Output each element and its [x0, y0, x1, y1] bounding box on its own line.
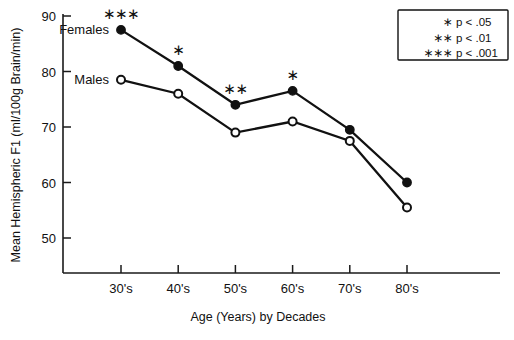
data-point	[289, 118, 297, 126]
legend-significance-stars: ∗	[442, 15, 452, 29]
significance-marker: ∗	[172, 41, 184, 59]
data-point	[403, 178, 411, 186]
y-axis-group: 5060708090	[42, 9, 71, 273]
significance-marker: ∗	[287, 66, 299, 84]
data-point	[174, 62, 182, 70]
series-label-females: Females	[59, 22, 109, 37]
legend-significance-text: p < .001	[456, 47, 498, 59]
legend-significance-text: p < .01	[456, 32, 492, 44]
data-point	[346, 137, 354, 145]
data-point	[231, 129, 239, 137]
x-tick-label: 70's	[338, 281, 362, 296]
figure-container: 5060708090 30's40's50's60's70's80's Mean…	[0, 0, 514, 340]
data-point	[403, 204, 411, 212]
y-tick-label: 70	[42, 120, 56, 135]
line-chart: 5060708090 30's40's50's60's70's80's Mean…	[0, 0, 514, 340]
x-tick-label: 30's	[109, 281, 133, 296]
x-axis-title: Age (Years) by Decades	[190, 310, 325, 324]
data-point	[117, 26, 125, 34]
data-point	[231, 101, 239, 109]
legend-significance-stars: ∗∗	[433, 31, 452, 45]
series-label-males: Males	[74, 72, 109, 87]
significance-annotation-layer: ∗∗∗∗∗∗∗	[103, 5, 299, 98]
y-tick-label: 50	[42, 231, 56, 246]
series-line	[121, 30, 407, 183]
x-tick-group: 30's40's50's60's70's80's	[109, 265, 419, 296]
y-tick-label: 60	[42, 176, 56, 191]
x-axis-group: 30's40's50's60's70's80's	[63, 265, 500, 296]
legend-significance-stars: ∗∗∗	[423, 46, 452, 60]
series-layer	[117, 26, 411, 212]
x-tick-label: 60's	[281, 281, 305, 296]
data-point	[117, 76, 125, 84]
y-tick-label: 90	[42, 9, 56, 24]
data-point	[288, 87, 296, 95]
x-tick-label: 50's	[224, 281, 248, 296]
y-tick-group: 5060708090	[42, 9, 71, 246]
series-males	[117, 76, 411, 212]
data-point	[174, 90, 182, 98]
significance-marker: ∗∗	[223, 80, 247, 98]
x-tick-label: 40's	[166, 281, 190, 296]
y-axis-title: Mean Hemispheric F1 (ml/100g Brain/min)	[9, 28, 23, 263]
y-tick-label: 80	[42, 65, 56, 80]
legend-significance-text: p < .05	[456, 16, 492, 28]
legend: ∗p < .05∗∗p < .01∗∗∗p < .001	[398, 10, 508, 60]
series-label-layer: FemalesMales	[59, 22, 109, 87]
significance-marker: ∗∗∗	[103, 5, 139, 23]
x-tick-label: 80's	[395, 281, 419, 296]
data-point	[346, 126, 354, 134]
